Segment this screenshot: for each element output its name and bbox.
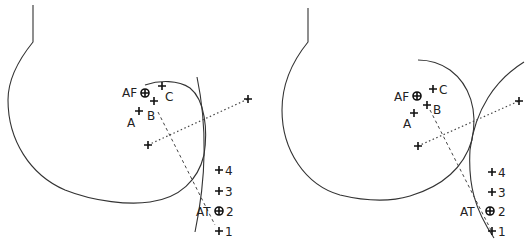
label-1: 1 xyxy=(498,225,506,239)
label-B: B xyxy=(147,109,155,123)
point-4-marker xyxy=(215,166,223,174)
outer-profile-curve xyxy=(282,8,474,200)
panel-right: AF C B A AT 4 3 2 1 xyxy=(282,8,524,239)
point-AT xyxy=(486,207,494,215)
outer-point-marker xyxy=(515,97,523,105)
point-B-marker xyxy=(150,97,158,105)
point-C-marker xyxy=(429,85,437,93)
point-C-marker xyxy=(158,82,166,90)
panel-left: AF C B A AT 4 3 2 1 xyxy=(8,5,252,239)
label-AT: AT xyxy=(196,205,211,219)
label-C: C xyxy=(165,90,173,104)
label-C: C xyxy=(439,83,447,97)
point-1-marker xyxy=(215,227,223,235)
point-AF xyxy=(141,89,149,97)
label-2: 2 xyxy=(498,205,506,219)
outer-profile-curve xyxy=(8,5,206,203)
normal-line-dotted xyxy=(148,99,248,145)
label-3: 3 xyxy=(225,185,233,199)
label-AT: AT xyxy=(460,205,475,219)
point-B-marker xyxy=(423,101,431,109)
point-AT xyxy=(215,207,223,215)
label-4: 4 xyxy=(225,164,233,178)
label-AF: AF xyxy=(122,86,137,100)
label-AF: AF xyxy=(394,90,409,104)
point-1-marker xyxy=(488,227,496,235)
point-A-marker xyxy=(410,109,418,117)
label-3: 3 xyxy=(498,186,506,200)
tool-arc xyxy=(470,62,524,238)
point-4-marker xyxy=(488,168,496,176)
point-A-marker xyxy=(135,107,143,115)
center-point-marker xyxy=(414,142,422,150)
label-2: 2 xyxy=(226,205,234,219)
outer-point-marker xyxy=(244,95,252,103)
label-4: 4 xyxy=(498,166,506,180)
label-A: A xyxy=(403,117,412,131)
label-A: A xyxy=(127,116,136,130)
label-B: B xyxy=(433,103,441,117)
point-3-marker xyxy=(488,188,496,196)
diagram-canvas: AF C B A AT 4 3 2 1 AF C B A A xyxy=(0,0,528,242)
point-AF xyxy=(413,92,421,100)
label-1: 1 xyxy=(225,225,233,239)
center-point-marker xyxy=(144,141,152,149)
point-3-marker xyxy=(215,187,223,195)
